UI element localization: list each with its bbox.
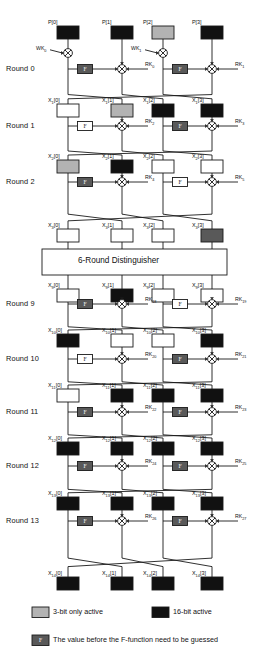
round-label: Round 12 [6,461,39,470]
state-cell-label: X9[3] [192,282,204,290]
svg-text:F: F [83,518,86,524]
state-cell-label: X3[1] [102,222,114,230]
state-cell [111,229,133,242]
state-cell [201,389,223,402]
state-cell-label: X1[0] [48,97,60,105]
state-cell [111,442,133,455]
state-cell-label: X1[3] [192,97,204,105]
whitening-key-label: WK1 [131,45,141,53]
state-cell-label: P[1] [102,19,112,25]
state-cell-label: X2[2] [143,153,155,161]
state-cell-label: X14[2] [143,570,157,578]
state-cell [152,104,174,117]
state-cell-label: X13[1] [102,490,116,498]
state-cell [111,104,133,117]
state-cell [57,289,79,302]
svg-text:F: F [83,179,86,185]
svg-text:F: F [83,463,86,469]
legend-label: 3-bit only active [53,607,103,616]
round-key-label: RK23 [235,404,246,412]
svg-text:F: F [178,123,181,129]
round-key-label: RK3 [235,118,244,126]
state-cell-label: P[3] [192,19,202,25]
round-key-label: RK25 [235,458,246,466]
svg-text:F: F [83,66,86,72]
legend-swatch [32,607,49,618]
state-cell-label: X14[1] [102,570,116,578]
state-cell [57,442,79,455]
state-cell [57,160,79,173]
whitening-key-label: WK0 [36,45,46,53]
svg-text:F: F [178,66,181,72]
state-cell [201,334,223,347]
state-cell [57,389,79,402]
svg-text:F: F [83,356,86,362]
round-key-label: RK5 [235,174,244,182]
state-cell-label: X10[2] [143,327,157,335]
round-key-label: RK21 [235,351,246,359]
state-cell-label: P[0] [48,19,58,25]
state-cell-label: X11[3] [192,382,206,390]
state-cell [152,334,174,347]
state-cell [201,442,223,455]
state-cell [111,26,133,39]
state-cell-label: X9[1] [102,282,114,290]
state-cell-label: X10[3] [192,327,206,335]
state-cell [152,229,174,242]
state-cell [152,577,174,590]
round-label: Round 1 [6,121,35,130]
svg-text:F: F [178,463,181,469]
state-cell [152,160,174,173]
state-cell [152,389,174,402]
round-key-label: RK22 [145,404,156,412]
svg-text:F: F [178,301,181,307]
round-key-label: RK0 [145,61,154,69]
state-cell [152,497,174,510]
state-cell-label: X2[0] [48,153,60,161]
svg-text:F: F [178,356,181,362]
round-key-label: RK20 [145,351,156,359]
svg-text:F: F [39,637,42,643]
state-cell-label: X9[0] [48,282,60,290]
state-cell-label: X11[2] [143,382,157,390]
state-cell-label: X1[2] [143,97,155,105]
state-cell [57,497,79,510]
state-cell-label: X12[0] [48,435,62,443]
state-cell [111,160,133,173]
state-cell-label: X13[2] [143,490,157,498]
round-key-label: RK26 [145,513,156,521]
state-cell-label: X13[3] [192,490,206,498]
state-cell-label: X12[3] [192,435,206,443]
round-key-label: RK24 [145,458,156,466]
round-label: Round 2 [6,177,35,186]
state-cell-label: X11[1] [102,382,116,390]
state-cell-label: P[2] [143,19,153,25]
state-cell [201,160,223,173]
state-cell-label: X10[1] [102,327,116,335]
state-cell [201,497,223,510]
state-cell-label: X14[0] [48,570,62,578]
state-cell-label: X10[0] [48,327,62,335]
round-key-label: RK1 [235,61,244,69]
legend-label: 16-bit active [173,607,212,616]
svg-text:F: F [178,518,181,524]
svg-text:F: F [83,301,86,307]
round-key-label: RK19 [235,296,246,304]
state-cell [111,497,133,510]
state-cell [57,577,79,590]
figure-canvas: FFFFFFFFFFFFFFFFF P[0]P[1]P[2]P[3]X1[0]X… [0,0,255,669]
legend-label: The value before the F-function need to … [53,635,218,644]
state-cell [201,577,223,590]
state-cell-label: X2[1] [102,153,114,161]
legend-swatch [152,607,169,618]
round-key-label: RK18 [145,296,156,304]
state-cell-label: X9[2] [143,282,155,290]
state-cell [201,26,223,39]
state-cell-label: X12[1] [102,435,116,443]
state-cell [111,389,133,402]
round-label: Round 0 [6,64,35,73]
distinguisher-label: 6-Round Distinguisher [78,256,159,265]
state-cell-label: X14[3] [192,570,206,578]
cipher-diagram: FFFFFFFFFFFFFFFFF [0,0,255,669]
round-label: Round 13 [6,516,39,525]
